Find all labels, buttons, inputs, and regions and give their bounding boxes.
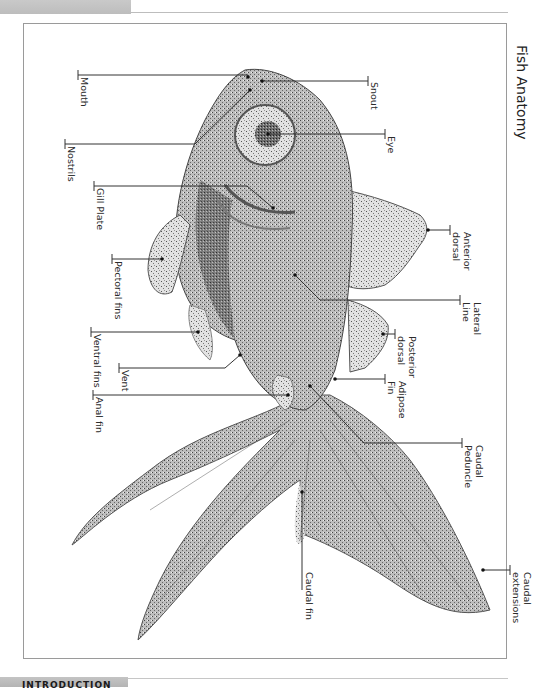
- label-anterior-dorsal: Anterior dorsal: [451, 232, 472, 270]
- anal-fin-shape: [272, 375, 293, 410]
- label-lateral-line-line1: Lateral: [472, 302, 483, 335]
- caudal-fin-shape: [72, 395, 490, 640]
- label-caudal-extensions: Caudal extensions: [511, 572, 532, 623]
- label-adipose-fin: Adipose Fin: [386, 381, 407, 419]
- label-adipose-fin-line1: Adipose: [397, 381, 408, 419]
- label-mouth: Mouth: [79, 77, 90, 107]
- label-caudal-extensions-line2: extensions: [511, 572, 522, 623]
- label-adipose-fin-line2: Fin: [386, 381, 397, 419]
- section-header-text: INTRODUCTION: [22, 681, 112, 690]
- anterior-dorsal-fin-shape: [345, 190, 427, 289]
- label-anal-fin: Anal fin: [94, 397, 105, 433]
- label-caudal-peduncle: Caudal Peduncle: [463, 445, 484, 488]
- label-posterior-dorsal: Posterior dorsal: [396, 336, 417, 378]
- label-gill-plate: Gill Plate: [95, 188, 106, 230]
- label-lateral-line: Lateral Line: [461, 302, 482, 335]
- label-snout: Snout: [369, 82, 380, 110]
- label-eye: Eye: [386, 136, 397, 153]
- posterior-dorsal-fin-shape: [348, 300, 388, 372]
- label-vent: Vent: [120, 370, 131, 391]
- label-caudal-peduncle-line2: Peduncle: [463, 445, 474, 488]
- label-pectoral-fins: Pectoral fins: [113, 261, 124, 319]
- label-caudal-peduncle-line1: Caudal: [474, 445, 485, 488]
- label-nostrils: Nostrils: [66, 146, 77, 182]
- label-posterior-dorsal-line2: dorsal: [396, 336, 407, 378]
- label-caudal-fin: Caudal fin: [304, 572, 315, 620]
- label-ventral-fins: Ventral fins: [92, 334, 103, 388]
- label-posterior-dorsal-line1: Posterior: [407, 336, 418, 378]
- label-anterior-dorsal-line2: dorsal: [451, 232, 462, 270]
- figure-title: Fish Anatomy: [514, 45, 530, 140]
- label-anterior-dorsal-line1: Anterior: [462, 232, 473, 270]
- label-caudal-extensions-line1: Caudal: [522, 572, 533, 623]
- label-lateral-line-line2: Line: [461, 302, 472, 335]
- footer-rule: [128, 678, 508, 679]
